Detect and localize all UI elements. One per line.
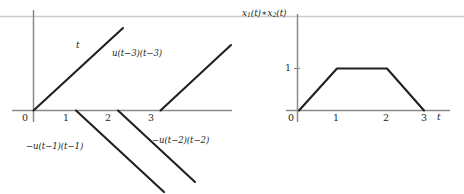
left-xtick-1: 1: [63, 113, 69, 123]
title-mid: (t): [251, 8, 261, 18]
right-xtick-1: 1: [333, 113, 339, 123]
curve-ramp-u-t-minus-3: [161, 45, 232, 111]
right-xtick-0: 0: [288, 113, 294, 123]
right-ytick-1: 1: [285, 63, 291, 73]
label-ramp-t: t: [76, 41, 80, 50]
label-ramp-neg-u-t-minus-2: −u(t−2)(t−2): [152, 136, 209, 145]
label-ramp-u-t-minus-3: u(t−3)(t−3): [112, 49, 162, 58]
left-xtick-2: 2: [105, 113, 111, 123]
left-xtick-3: 3: [148, 113, 154, 123]
right-xtick-2: 2: [383, 113, 389, 123]
right-xtick-3: 3: [421, 113, 427, 123]
convolution-operator-icon: ∗: [261, 8, 268, 18]
label-ramp-neg-u-t-minus-1: −u(t−1)(t−1): [26, 142, 83, 151]
convolution-figure: t u(t−3)(t−3) −u(t−1)(t−1) −u(t−2)(t−2) …: [0, 0, 464, 194]
right-panel: [286, 14, 450, 122]
right-panel-title: x1(t)∗x2(t): [242, 9, 286, 19]
left-xtick-0: 0: [22, 113, 28, 123]
curve-convolution-trapezoid: [299, 69, 424, 111]
left-panel: [12, 10, 232, 192]
figure-canvas: [0, 0, 464, 194]
title-end: (t): [276, 8, 286, 18]
right-x-axis-label: t: [437, 113, 441, 122]
curve-ramp-neg-u-t-minus-2: [118, 111, 195, 183]
